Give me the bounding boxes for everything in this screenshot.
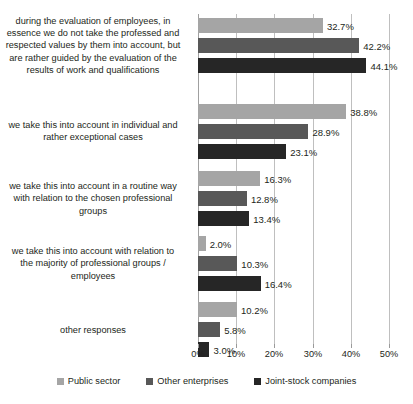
bar-1-4[interactable] [198, 322, 220, 337]
x-tick-label: 40% [342, 349, 360, 360]
bar-0-3[interactable] [198, 236, 206, 251]
legend-item-1[interactable]: Other enterprises [146, 376, 228, 387]
bar-1-2[interactable] [198, 191, 247, 206]
x-tick [274, 344, 275, 348]
category-label: we take this into account in a routine w… [5, 180, 181, 217]
bar-0-2[interactable] [198, 171, 260, 186]
bar-row: 32.7% [198, 18, 389, 33]
bar-row: 16.3% [198, 171, 389, 186]
x-tick-label: 20% [265, 349, 283, 360]
category-label: we take this into account in individual … [5, 119, 181, 144]
bar-value-label: 44.1% [366, 60, 397, 71]
bar-value-label: 2.0% [206, 238, 232, 249]
legend-item-2[interactable]: Joint-stock companies [254, 376, 356, 387]
bar-group: 38.8%28.9%23.1% [198, 104, 389, 159]
legend-label: Other enterprises [157, 376, 228, 387]
bar-row: 23.1% [198, 144, 389, 159]
bar-1-3[interactable] [198, 256, 237, 271]
bar-row: 38.8% [198, 104, 389, 119]
bar-value-label: 5.8% [220, 324, 246, 335]
bar-value-label: 38.8% [346, 106, 377, 117]
plot-area: 32.7%42.2%44.1%38.8%28.9%23.1%16.3%12.8%… [198, 14, 389, 344]
bar-value-label: 28.9% [308, 126, 339, 137]
bar-value-label: 13.4% [249, 213, 280, 224]
bar-2-1[interactable] [198, 144, 286, 159]
bar-value-label: 12.8% [247, 193, 278, 204]
legend-item-0[interactable]: Public sector [57, 376, 121, 387]
bar-value-label: 23.1% [286, 146, 317, 157]
bar-group: 2.0%10.3%16.4% [198, 236, 389, 291]
bar-row: 13.4% [198, 211, 389, 226]
bar-1-0[interactable] [198, 38, 359, 53]
legend-label: Public sector [68, 376, 121, 387]
x-tick-label: 0% [191, 349, 204, 360]
bar-value-label: 42.2% [359, 40, 390, 51]
chart-legend: Public sectorOther enterprisesJoint-stoc… [0, 376, 413, 387]
bar-value-label: 32.7% [323, 20, 354, 31]
category-label: other responses [5, 324, 181, 336]
legend-swatch-icon [254, 378, 261, 385]
x-axis: 0%10%20%30%40%50% [198, 344, 389, 364]
bar-value-label: 16.4% [261, 278, 292, 289]
legend-label: Joint-stock companies [265, 376, 356, 387]
bar-group: 16.3%12.8%13.4% [198, 171, 389, 226]
bar-row: 16.4% [198, 276, 389, 291]
x-tick-label: 50% [380, 349, 398, 360]
legend-swatch-icon [57, 378, 64, 385]
bar-row: 10.2% [198, 302, 389, 317]
bar-0-4[interactable] [198, 302, 237, 317]
legend-swatch-icon [146, 378, 153, 385]
bar-value-label: 16.3% [260, 173, 291, 184]
x-tick [389, 344, 390, 348]
bar-row: 5.8% [198, 322, 389, 337]
bar-group: 32.7%42.2%44.1% [198, 18, 389, 73]
bar-value-label: 10.3% [237, 258, 268, 269]
category-label: during the evaluation of employees, in e… [5, 15, 181, 77]
x-tick-label: 10% [227, 349, 245, 360]
bar-row: 42.2% [198, 38, 389, 53]
x-tick [236, 344, 237, 348]
bar-2-0[interactable] [198, 58, 366, 73]
category-label: we take this into account with relation … [5, 245, 181, 282]
bar-row: 2.0% [198, 236, 389, 251]
x-tick [313, 344, 314, 348]
bar-chart: 32.7%42.2%44.1%38.8%28.9%23.1%16.3%12.8%… [0, 0, 413, 404]
x-tick-label: 30% [304, 349, 322, 360]
x-tick [351, 344, 352, 348]
bar-row: 12.8% [198, 191, 389, 206]
bar-row: 10.3% [198, 256, 389, 271]
bar-2-2[interactable] [198, 211, 249, 226]
bar-0-1[interactable] [198, 104, 346, 119]
bar-1-1[interactable] [198, 124, 308, 139]
bar-row: 28.9% [198, 124, 389, 139]
bar-0-0[interactable] [198, 18, 323, 33]
bar-value-label: 10.2% [237, 304, 268, 315]
bar-row: 44.1% [198, 58, 389, 73]
bar-2-3[interactable] [198, 276, 261, 291]
x-tick [198, 344, 199, 348]
